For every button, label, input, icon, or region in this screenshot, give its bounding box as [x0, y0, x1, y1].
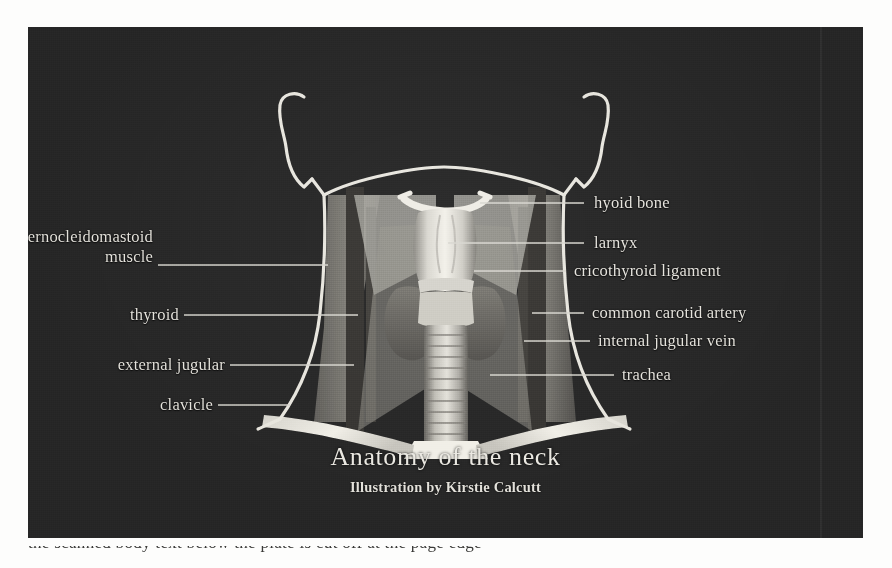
label-cricothyroid-ligament: cricothyroid ligament: [574, 261, 721, 281]
trachea: [424, 325, 468, 445]
label-clavicle: clavicle: [160, 395, 213, 415]
illustration-credit: Illustration by Kirstie Calcutt: [28, 479, 863, 496]
label-larynx: larnyx: [594, 233, 637, 253]
scanned-page: sternocleidomastoid muscle thyroid exter…: [0, 0, 892, 568]
cricoid-cartilage: [418, 292, 474, 328]
illustration-title: Anatomy of the neck: [28, 442, 863, 472]
label-internal-jugular-vein: internal jugular vein: [598, 331, 736, 351]
label-thyroid: thyroid: [130, 305, 179, 325]
label-common-carotid-artery: common carotid artery: [592, 303, 746, 323]
clipped-body-text: the scanned body text below the plate is…: [28, 546, 863, 568]
label-hyoid-bone: hyoid bone: [594, 193, 670, 213]
label-trachea: trachea: [622, 365, 671, 385]
label-sternocleidomastoid-line2: muscle: [28, 247, 153, 267]
label-sternocleidomastoid-line1: sternocleidomastoid: [28, 227, 153, 247]
clipped-body-text-line: the scanned body text below the plate is…: [28, 546, 863, 553]
label-external-jugular: external jugular: [118, 355, 225, 375]
illustration-plate: sternocleidomastoid muscle thyroid exter…: [28, 27, 863, 538]
label-sternocleidomastoid-muscle: sternocleidomastoid muscle: [28, 227, 153, 267]
